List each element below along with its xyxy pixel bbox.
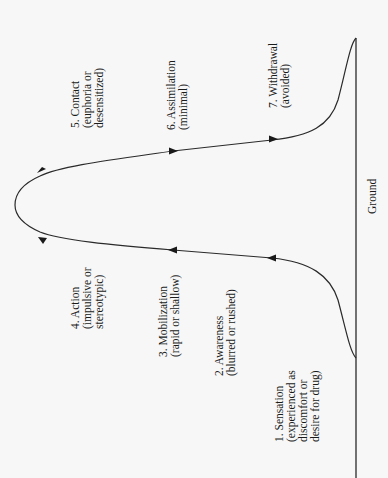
svg-text:1. Sensation: 1. Sensation [273, 386, 285, 442]
stage-6-assimilation-label: 6. Assimilation (minimal) [165, 60, 190, 130]
svg-text:(minimal): (minimal) [177, 84, 190, 130]
svg-text:desensitized): desensitized) [93, 68, 106, 128]
svg-text:desire for drug): desire for drug) [309, 370, 322, 442]
svg-text:2. Awareness: 2. Awareness [213, 315, 225, 376]
stage-2-awareness-label: 2. Awareness (blurred or rushed) [213, 289, 238, 376]
stage-5-contact-label: 5. Contact (euphoria or desensitized) [69, 68, 106, 128]
svg-text:4. Action: 4. Action [69, 287, 81, 329]
diagram-svg: Ground 5. Contact (euphoria or desensiti… [0, 0, 388, 478]
stage-7-withdrawal-label: 7. Withdrawal (avoided) [267, 43, 292, 108]
cycle-of-experience-diagram: Ground 5. Contact (euphoria or desensiti… [0, 0, 388, 478]
svg-text:6. Assimilation: 6. Assimilation [165, 60, 177, 130]
stage-1-sensation-label: 1. Sensation (experienced as discomfort … [273, 370, 322, 442]
svg-text:5. Contact: 5. Contact [69, 80, 81, 128]
svg-text:(rapid or shallow): (rapid or shallow) [169, 274, 182, 357]
svg-text:7. Withdrawal: 7. Withdrawal [267, 43, 279, 108]
arrow-icon [37, 167, 46, 173]
ground-label: Ground [366, 179, 378, 214]
svg-text:discomfort or: discomfort or [297, 380, 309, 442]
stage-4-action-label: 4. Action (impulsive or stereotypic) [69, 267, 106, 329]
arrow-icon [267, 255, 276, 262]
arrow-icon [169, 148, 178, 155]
svg-text:(avoided): (avoided) [279, 64, 292, 108]
svg-text:stereotypic): stereotypic) [93, 275, 106, 329]
svg-text:(blurred or rushed): (blurred or rushed) [225, 289, 238, 376]
stage-3-mobilization-label: 3. Mobilization (rapid or shallow) [157, 274, 182, 357]
arrow-icon [38, 237, 47, 244]
arrow-icon [168, 247, 177, 254]
svg-text:3. Mobilization: 3. Mobilization [157, 286, 169, 357]
arrow-icon [269, 136, 278, 143]
